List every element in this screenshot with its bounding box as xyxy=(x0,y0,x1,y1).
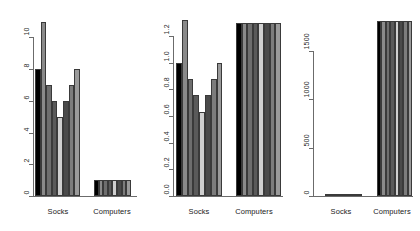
y-axis-line xyxy=(313,51,314,196)
y-axis-tick xyxy=(29,196,33,197)
barplot-figure: 0246810SocksComputers 0.00.20.40.60.81.0… xyxy=(0,0,420,231)
chart-panel-2: 0.00.20.40.60.81.01.2SocksComputers xyxy=(140,0,285,231)
y-axis-tick xyxy=(309,196,313,197)
y-axis-line xyxy=(173,36,174,196)
y-axis-tick xyxy=(29,37,33,38)
bar xyxy=(357,194,362,196)
x-axis-baseline xyxy=(313,196,413,197)
y-axis-tick xyxy=(309,99,313,100)
plot-area-1: 0246810SocksComputers xyxy=(0,0,140,231)
bar xyxy=(408,21,412,196)
y-axis-tick xyxy=(169,169,173,170)
y-axis-line xyxy=(33,37,34,196)
plot-area-3: 050010001500SocksComputers xyxy=(285,0,420,231)
y-axis-tick xyxy=(169,63,173,64)
x-axis-group-label-computers: Computers xyxy=(214,207,294,216)
y-axis-tick xyxy=(169,36,173,37)
bar xyxy=(275,23,281,196)
chart-panel-3: 050010001500SocksComputers xyxy=(285,0,420,231)
y-axis-tick xyxy=(169,116,173,117)
y-axis-tick xyxy=(169,143,173,144)
y-axis-tick xyxy=(169,89,173,90)
bar xyxy=(217,63,223,196)
bar xyxy=(126,180,131,196)
y-axis-tick xyxy=(309,148,313,149)
y-axis-tick xyxy=(29,133,33,134)
x-axis-group-label-computers: Computers xyxy=(352,207,420,216)
y-axis-tick xyxy=(309,51,313,52)
plot-area-2: 0.00.20.40.60.81.01.2SocksComputers xyxy=(140,0,285,231)
x-axis-baseline xyxy=(173,196,283,197)
y-axis-tick xyxy=(29,101,33,102)
y-axis-tick xyxy=(29,164,33,165)
y-axis-tick xyxy=(169,196,173,197)
bar xyxy=(74,69,80,196)
x-axis-baseline xyxy=(33,196,137,197)
y-axis-tick xyxy=(29,69,33,70)
chart-panel-1: 0246810SocksComputers xyxy=(0,0,140,231)
